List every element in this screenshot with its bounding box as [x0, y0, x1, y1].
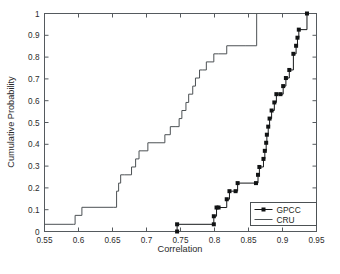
data-point-marker — [175, 230, 179, 234]
data-point-marker — [294, 44, 298, 48]
data-point-marker — [287, 68, 291, 72]
y-tick-label: 0.3 — [28, 162, 40, 171]
legend-swatch-marker — [262, 208, 266, 212]
y-tick-label: 1 — [35, 10, 40, 19]
figure-caption-fragment — [0, 264, 340, 274]
x-tick-label: 0.6 — [73, 236, 85, 245]
series-layer — [45, 12, 309, 234]
x-tick-label: 0.7 — [141, 236, 153, 245]
y-axis-title: Cumulative Probability — [6, 76, 16, 168]
data-point-marker — [236, 181, 240, 185]
data-point-marker — [175, 222, 179, 226]
data-point-marker — [225, 197, 229, 201]
y-tick-label: 0.7 — [28, 75, 40, 84]
y-tick-label: 0.2 — [28, 184, 40, 193]
data-point-marker — [264, 141, 268, 145]
y-tick-label: 0.9 — [28, 31, 40, 40]
data-point-marker — [266, 125, 270, 129]
data-point-marker — [257, 165, 261, 169]
data-point-marker — [212, 214, 216, 218]
x-tick-label: 0.65 — [105, 236, 121, 245]
data-point-marker — [297, 28, 301, 32]
cdf-chart: 0.550.60.650.70.750.80.850.90.95 00.10.2… — [0, 0, 340, 274]
legend-label-cru[interactable]: CRU — [277, 215, 295, 225]
data-point-marker — [217, 206, 221, 210]
data-point-marker — [281, 84, 285, 88]
x-axis-ticks — [45, 14, 317, 232]
y-tick-label: 0.8 — [28, 53, 40, 62]
data-point-marker — [305, 12, 309, 16]
data-point-marker — [284, 76, 288, 80]
x-axis-title: Correlation — [158, 244, 203, 254]
series-cru — [45, 14, 257, 225]
data-point-marker — [268, 117, 272, 121]
y-tick-label: 0.5 — [28, 119, 40, 128]
x-tick-label: 0.95 — [309, 236, 325, 245]
data-point-marker — [272, 100, 276, 104]
data-point-marker — [278, 92, 282, 96]
data-point-marker — [270, 109, 274, 113]
x-tick-label: 0.55 — [37, 236, 53, 245]
y-tick-label: 0.6 — [28, 97, 40, 106]
data-point-marker — [254, 181, 258, 185]
y-axis-tick-labels: 00.10.20.30.40.50.60.70.80.91 — [28, 10, 40, 237]
figure-root: 0.550.60.650.70.750.80.850.90.95 00.10.2… — [0, 0, 340, 274]
data-point-marker — [234, 189, 238, 193]
x-tick-label: 0.85 — [241, 236, 257, 245]
data-point-marker — [265, 133, 269, 137]
x-tick-label: 0.9 — [277, 236, 289, 245]
y-tick-label: 0.4 — [28, 140, 40, 149]
data-point-marker — [261, 157, 265, 161]
series-path — [45, 14, 257, 225]
data-point-marker — [212, 222, 216, 226]
data-point-marker — [274, 92, 278, 96]
y-axis-ticks — [45, 14, 317, 232]
chart-legend[interactable]: GPCCCRU — [251, 203, 317, 226]
plot-area-border — [45, 14, 317, 232]
y-tick-label: 0.1 — [28, 206, 40, 215]
legend-label-gpcc[interactable]: GPCC — [277, 205, 301, 215]
data-point-marker — [295, 36, 299, 40]
series-gpcc — [175, 12, 309, 234]
data-point-marker — [263, 149, 267, 153]
data-point-marker — [227, 189, 231, 193]
x-tick-label: 0.8 — [209, 236, 221, 245]
plot-frame — [45, 14, 317, 232]
data-point-marker — [256, 173, 260, 177]
data-point-marker — [291, 52, 295, 56]
y-tick-label: 0 — [35, 228, 40, 237]
